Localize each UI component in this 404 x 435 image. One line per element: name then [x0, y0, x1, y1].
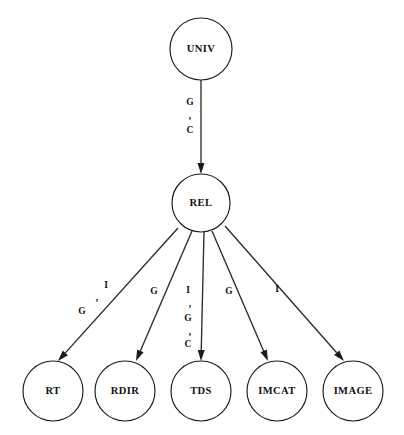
edge-rel-imcat: [212, 231, 268, 361]
node-tds[interactable]: TDS: [171, 361, 231, 421]
edge-line-rel-tds: [201, 232, 204, 350]
nodes-layer: UNIVRELRTRDIRTDSIMCATIMAGE: [23, 18, 383, 421]
edge-labels-layer: G,CG,IGI,G,CGI: [78, 97, 279, 349]
edge-label-rel-rt-2: I: [104, 280, 108, 290]
edge-label-rel-tds-0: I: [186, 285, 190, 295]
node-label-image: IMAGE: [334, 385, 373, 396]
node-univ[interactable]: UNIV: [170, 18, 232, 80]
node-rt[interactable]: RT: [23, 361, 83, 421]
edge-univ-rel: [198, 80, 205, 174]
node-image[interactable]: IMAGE: [323, 361, 383, 421]
edge-label-univ-rel-1: ,: [189, 111, 192, 121]
edge-label-rel-imcat-0: G: [225, 286, 233, 296]
arrowhead-rel-imcat: [260, 350, 268, 361]
node-label-rdir: RDIR: [111, 385, 139, 396]
edge-rel-tds: [198, 232, 205, 361]
edge-label-rel-tds-4: C: [185, 339, 192, 349]
edge-line-rel-rdir: [140, 231, 192, 351]
edge-label-rel-tds-2: G: [184, 313, 192, 323]
edge-label-rel-rdir-0: G: [150, 286, 158, 296]
node-label-imcat: IMCAT: [258, 385, 295, 396]
node-rel[interactable]: REL: [172, 174, 230, 232]
arrowhead-univ-rel: [198, 163, 205, 174]
edge-label-rel-tds-3: ,: [189, 327, 192, 337]
edge-label-rel-rt-0: G: [78, 306, 86, 316]
edge-rel-rt: [58, 228, 178, 361]
diagram-canvas: UNIVRELRTRDIRTDSIMCATIMAGE G,CG,IGI,G,CG…: [0, 0, 404, 435]
node-label-rt: RT: [45, 385, 60, 396]
node-label-tds: TDS: [190, 385, 212, 396]
node-label-univ: UNIV: [187, 43, 215, 54]
edge-line-rel-rt: [65, 228, 178, 353]
edge-label-rel-tds-1: ,: [189, 299, 192, 309]
edge-rel-image: [225, 226, 344, 361]
edge-line-rel-imcat: [212, 231, 264, 351]
arrowhead-rel-rdir: [136, 350, 144, 361]
edge-label-rel-image-0: I: [275, 284, 279, 294]
edge-label-univ-rel-2: C: [187, 125, 194, 135]
node-imcat[interactable]: IMCAT: [247, 361, 307, 421]
edge-label-rel-rt-1: ,: [96, 293, 99, 303]
node-rdir[interactable]: RDIR: [95, 361, 155, 421]
edge-line-rel-image: [225, 226, 337, 353]
node-label-rel: REL: [190, 197, 213, 208]
arrowhead-rel-tds: [198, 350, 205, 361]
graph-svg: UNIVRELRTRDIRTDSIMCATIMAGE G,CG,IGI,G,CG…: [0, 0, 404, 435]
edge-label-univ-rel-0: G: [186, 97, 194, 107]
